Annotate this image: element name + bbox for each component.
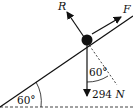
weight-value-label: 294 N xyxy=(92,88,125,100)
incline-angle-arc xyxy=(36,82,41,107)
weight-angle-label: 60° xyxy=(89,66,108,78)
reaction-force-arrow xyxy=(67,12,84,37)
normal-dashed-line xyxy=(87,42,117,85)
force-diagram: 60° 294 N 60° F R xyxy=(0,0,133,109)
particle xyxy=(82,35,93,46)
applied-force-label: F xyxy=(122,3,131,16)
applied-force-arrow xyxy=(92,17,121,34)
incline-angle-label: 60° xyxy=(17,94,36,106)
reaction-force-label: R xyxy=(57,0,66,13)
